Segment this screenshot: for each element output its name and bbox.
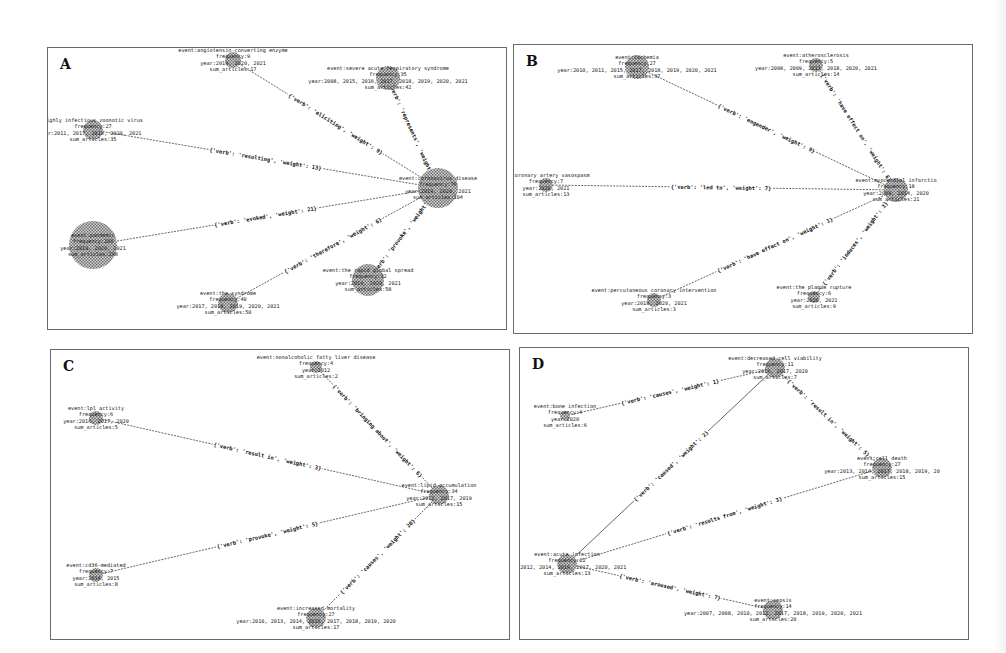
graph-node: event:cd36-mediatedfrequency:7year:2014,… <box>66 562 125 588</box>
node-label: sum_articles:8 <box>74 581 118 588</box>
node-label: sum_articles:7 <box>753 374 797 381</box>
network-graph: {'verb': 'engender', 'weight': 9}{'verb'… <box>514 45 974 335</box>
graph-node: event:lipid accumulationfrequency:34year… <box>402 482 477 508</box>
node-label: sum_articles:20 <box>750 616 797 623</box>
network-graph: {'verb': 'bringing about', 'weight': 6}{… <box>51 350 511 641</box>
node-label: event:ischemia <box>615 54 659 60</box>
panel-letter: C <box>63 358 74 374</box>
network-graph: {'verb': 'causes', 'weight': 1}{'verb': … <box>520 348 970 641</box>
node-label: sum_articles:50 <box>205 309 252 316</box>
graph-node: highly infectious zoonotic virusfrequenc… <box>48 117 143 143</box>
edge-label: {'verb': 'engender', 'weight': 9} <box>716 103 816 155</box>
graph-edge: {'verb': 'causes', 'weight': 20} <box>316 495 439 618</box>
node-label: 11, 2012, 2014, 2016, 2017, 2020, 2021 <box>520 564 626 570</box>
panel-b: {'verb': 'engender', 'weight': 9}{'verb'… <box>513 44 973 334</box>
node-label: sum_articles:21 <box>873 196 920 203</box>
node-label: sum_articles:42 <box>365 84 412 91</box>
graph-edge: {'verb': 'led to', 'weight': 7} <box>546 183 896 192</box>
graph-edge: {'verb': 'induces', 'weight': 3} <box>814 190 896 297</box>
graph-node: event:acute infectionfrequency:2211, 201… <box>520 551 626 577</box>
graph-node: event:severe acute respiratory syndromef… <box>308 65 467 91</box>
edge-label: {'verb': 'caused', 'weight': 2} <box>632 429 710 503</box>
graph-edge: {'verb': 'have effect on', 'weight': 1} <box>654 190 896 300</box>
graph-node: event:pandemicfrequency:200year:2019, 20… <box>60 221 126 269</box>
node-label: sum_articles:9 <box>792 303 836 310</box>
edge-label: {'verb': 'have effect on', 'weight': 6} <box>819 73 893 183</box>
graph-node: event:the rapid global spreadfrequency:3… <box>323 264 414 296</box>
edge-label: {'verb': 'aroused', 'weight': 7} <box>618 573 721 602</box>
node-label: event:cd36-mediated <box>66 562 125 568</box>
node-label: event:acute infection <box>534 551 600 557</box>
node-label: sum_articles:17 <box>293 624 340 631</box>
page-edge <box>994 0 1006 653</box>
graph-edge: {'verb': 'resulting', 'weight': 13} <box>93 130 438 188</box>
graph-node: event:the plaque rupturefrequency:6year:… <box>777 284 852 310</box>
node-label: sum_articles:35 <box>70 136 117 143</box>
edge-label: {'verb': 'causes', 'weight': 20} <box>339 518 417 596</box>
node-label: sum_articles:2 <box>294 373 338 380</box>
node-label: sum_articles:3 <box>632 306 676 313</box>
node-label: event:bone infection <box>534 403 596 409</box>
edge-label: {'verb': 'eliciting', 'weight': 9} <box>287 92 384 156</box>
graph-node: event:sepsisfrequency:14year:2007, 2008,… <box>684 597 862 623</box>
node-label: sum_articles:5 <box>74 424 118 431</box>
graph-node: event:coronavirus diseasefrequency:76yea… <box>399 168 477 208</box>
graph-node: event:decreased cell viabilityfrequency:… <box>728 355 822 381</box>
graph-node: event:increased mortalityfrequency:27yea… <box>236 605 395 631</box>
node-label: event:coronavirus disease <box>399 175 477 181</box>
edge-label: {'verb': 'induces', 'weight': 3} <box>821 200 890 287</box>
panel-letter: B <box>526 53 538 69</box>
graph-edge: {'verb': 'provoke', 'weight': 5} <box>96 495 439 575</box>
graph-node: event:lpl activityfrequency:6year:2016, … <box>63 405 129 431</box>
node-label: sum_articles:17 <box>210 66 257 73</box>
graph-edge: {'verb': 'results from', 'weight': 3} <box>567 468 882 564</box>
panel-letter: A <box>60 56 71 72</box>
node-label: event:atherosclerosis <box>783 52 849 58</box>
network-graph: {'verb': 'eliciting', 'weight': 9}{'verb… <box>48 48 508 331</box>
graph-node: nt:coronary artery vasospasmfrequency:7y… <box>514 172 590 198</box>
node-label: sum_articles:298 <box>68 251 118 258</box>
node-label: event:cell death <box>857 455 907 461</box>
edge-label: {'verb': 'result in', 'weight': 3} <box>213 441 322 472</box>
node-label: sum_articles:15 <box>416 501 463 508</box>
graph-edge: {'verb': 'aroused', 'weight': 7} <box>567 564 773 610</box>
node-label: sum_articles:13 <box>523 191 570 198</box>
node-label: sum_articles:58 <box>345 286 392 293</box>
graph-node: event:bone infectionfrequency:4year:2020… <box>534 403 596 429</box>
graph-edge: {'verb': 'result in', 'weight': 5} <box>775 368 882 468</box>
panel-c: {'verb': 'bringing about', 'weight': 6}{… <box>50 349 510 640</box>
edge-label: {'verb': 'result in', 'weight': 5} <box>785 378 870 458</box>
node-label: sum_articles:6 <box>543 422 587 429</box>
graph-node: event:the syndromefrequency:40year:2017,… <box>176 290 279 316</box>
graph-node: event:myocardial infarctiofrequency:18ye… <box>855 177 936 203</box>
edge-label: {'verb': 'evoked', 'weight': 21} <box>214 205 318 229</box>
panel-d: {'verb': 'causes', 'weight': 1}{'verb': … <box>519 347 969 640</box>
graph-node: event:atherosclerosisfrequency:5year:200… <box>755 52 877 78</box>
node-label: sum_articles:14 <box>793 71 840 78</box>
graph-node: event:ischemiafrequency:27year:2010, 201… <box>557 54 716 80</box>
node-label: sum_articles:37 <box>614 73 661 80</box>
graph-edge: {'verb': 'causes', 'weight': 1} <box>565 368 775 416</box>
graph-node: event:nonalcoholic fatty liver diseasefr… <box>257 354 376 380</box>
panel-a: {'verb': 'eliciting', 'weight': 9}{'verb… <box>47 47 507 330</box>
graph-node: event:cell deathfrequency:27year:2013, 2… <box>824 455 940 481</box>
graph-edge: {'verb': 'bringing about', 'weight': 6} <box>316 367 439 495</box>
graph-node: event:angiotensin-converting enzymefrequ… <box>178 48 287 73</box>
edge-label: {'verb': 'have effect on', 'weight': 1} <box>716 216 834 275</box>
edge-label: {'verb': 'bringing about', 'weight': 6} <box>331 383 424 479</box>
node-label: ar:2011, 2017, 2019, 2020, 2021 <box>48 130 141 136</box>
panel-letter: D <box>532 356 544 372</box>
edge-label: {'verb': 'causes', 'weight': 1} <box>620 378 720 407</box>
edge-label: {'verb': 'provoke', 'weight': 5} <box>216 520 319 550</box>
edge-label: {'verb': 'results from', 'weight': 3} <box>666 496 783 538</box>
node-label: sum_articles:104 <box>413 194 463 201</box>
node-label: sum_articles:15 <box>859 474 906 481</box>
node-label: sum_articles:13 <box>544 570 591 577</box>
graph-edge: {'verb': 'result in', 'weight': 3} <box>96 418 439 495</box>
graph-edge: {'verb': 'have effect on', 'weight': 6} <box>816 65 896 190</box>
edge-label: {'verb': 'resulting', 'weight': 13} <box>209 147 322 173</box>
graph-node: event:percutaneous coronary intervention… <box>592 287 717 313</box>
